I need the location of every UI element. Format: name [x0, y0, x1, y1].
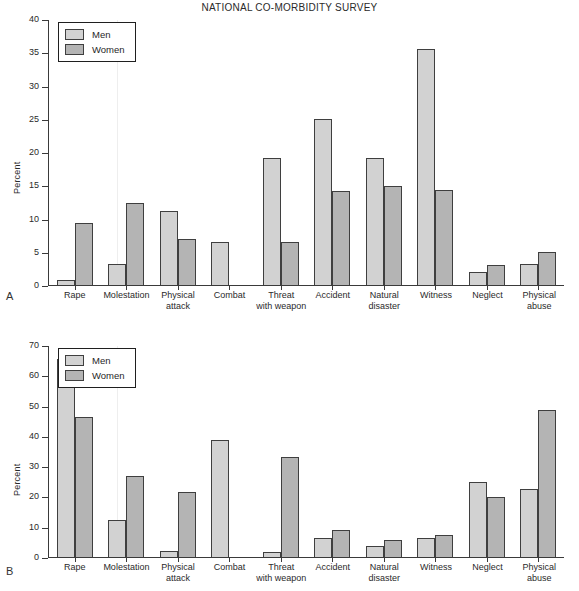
y-tick-label: 40: [13, 14, 39, 24]
x-axis-label: Threatwith weapon: [255, 290, 307, 312]
y-tick: 70: [42, 346, 48, 347]
legend-row-men: Men: [65, 27, 125, 42]
bar-men: [366, 158, 384, 285]
bar-women: [281, 457, 299, 557]
bar-men: [314, 119, 332, 285]
bar-group: [513, 20, 565, 285]
bar-group: [461, 20, 513, 285]
x-axis-label: Naturaldisaster: [359, 562, 411, 584]
y-tick: 0: [42, 286, 48, 287]
x-axis-label: Molestation: [101, 290, 153, 312]
panel-b-legend: Men Women: [58, 348, 136, 388]
bar-men: [417, 538, 435, 557]
x-axis-label: Rape: [49, 562, 101, 584]
legend-swatch-men-icon: [65, 29, 84, 40]
y-tick: 40: [42, 437, 48, 438]
bar-men: [469, 482, 487, 557]
bar-group: [255, 20, 307, 285]
y-tick-label: 20: [13, 147, 39, 157]
x-axis-label: Accident: [307, 562, 359, 584]
y-tick: 20: [42, 497, 48, 498]
x-axis-label: Rape: [49, 290, 101, 312]
y-tick: 35: [42, 53, 48, 54]
panel-a: A Percent 0510152025303540 Men Women Rap…: [0, 14, 579, 306]
panel-a-letter: A: [6, 290, 13, 302]
bar-men: [211, 440, 229, 558]
bar-men: [520, 264, 538, 285]
x-axis-label: Molestation: [101, 562, 153, 584]
x-axis-label: Combat: [204, 562, 256, 584]
legend-swatch-women-icon: [65, 44, 84, 55]
x-axis-label: Physicalattack: [152, 562, 204, 584]
bar-women: [332, 530, 350, 557]
bar-men: [469, 272, 487, 285]
y-tick-label: 40: [13, 431, 39, 441]
y-tick-label: 25: [13, 114, 39, 124]
y-tick: 30: [42, 467, 48, 468]
bar-group: [358, 346, 410, 557]
bar-group: [307, 346, 359, 557]
bar-women: [332, 191, 350, 285]
legend-row-women: Women: [65, 42, 125, 57]
bar-women: [384, 186, 402, 285]
y-tick-label: 30: [13, 81, 39, 91]
bar-women: [281, 242, 299, 285]
y-tick: 50: [42, 407, 48, 408]
bar-women: [75, 417, 93, 557]
y-tick-label: 50: [13, 401, 39, 411]
bar-group: [461, 346, 513, 557]
y-tick: 5: [42, 253, 48, 254]
y-tick-label: 5: [13, 247, 39, 257]
y-tick-label: 0: [13, 280, 39, 290]
bar-women: [384, 540, 402, 557]
bar-group: [410, 20, 462, 285]
panel-b: B Percent 010203040506070 Men Women Rape…: [0, 316, 579, 591]
x-axis-label: Neglect: [462, 290, 514, 312]
bar-men: [263, 552, 281, 557]
y-tick: 30: [42, 87, 48, 88]
y-tick-label: 60: [13, 370, 39, 380]
y-tick: 0: [42, 558, 48, 559]
bar-men: [211, 242, 229, 285]
legend-row-men: Men: [65, 353, 125, 368]
bar-men: [160, 551, 178, 557]
y-tick-label: 20: [13, 491, 39, 501]
y-tick-label: 10: [13, 522, 39, 532]
bar-group: [255, 346, 307, 557]
bar-group: [358, 20, 410, 285]
x-axis-label: Witness: [410, 562, 462, 584]
x-axis-label: Accident: [307, 290, 359, 312]
bar-women: [126, 203, 144, 285]
y-tick: 60: [42, 376, 48, 377]
bar-group: [204, 20, 256, 285]
y-tick-label: 30: [13, 461, 39, 471]
bar-group: [307, 20, 359, 285]
bar-group: [152, 20, 204, 285]
x-axis-label: Naturaldisaster: [359, 290, 411, 312]
bar-men: [160, 211, 178, 285]
legend-label-men: Men: [92, 29, 110, 40]
bar-men: [520, 489, 538, 557]
x-axis-label: Physicalabuse: [513, 562, 565, 584]
bar-women: [435, 535, 453, 557]
y-tick-label: 35: [13, 47, 39, 57]
bar-men: [314, 538, 332, 557]
bar-men: [417, 49, 435, 285]
bar-men: [57, 280, 75, 285]
y-tick: 25: [42, 120, 48, 121]
bar-men: [263, 158, 281, 285]
legend-row-women: Women: [65, 368, 125, 383]
bar-women: [487, 265, 505, 285]
y-tick-label: 70: [13, 340, 39, 350]
panel-b-letter: B: [6, 565, 13, 577]
y-tick-label: 10: [13, 214, 39, 224]
bar-women: [126, 476, 144, 557]
bar-women: [178, 492, 196, 557]
bar-group: [410, 346, 462, 557]
bar-men: [366, 546, 384, 557]
figure-canvas: NATIONAL CO-MORBIDITY SURVEY A Percent 0…: [0, 0, 579, 591]
bar-men: [108, 520, 126, 557]
panel-a-legend: Men Women: [58, 22, 136, 62]
bar-women: [178, 239, 196, 285]
legend-label-men: Men: [92, 355, 110, 366]
